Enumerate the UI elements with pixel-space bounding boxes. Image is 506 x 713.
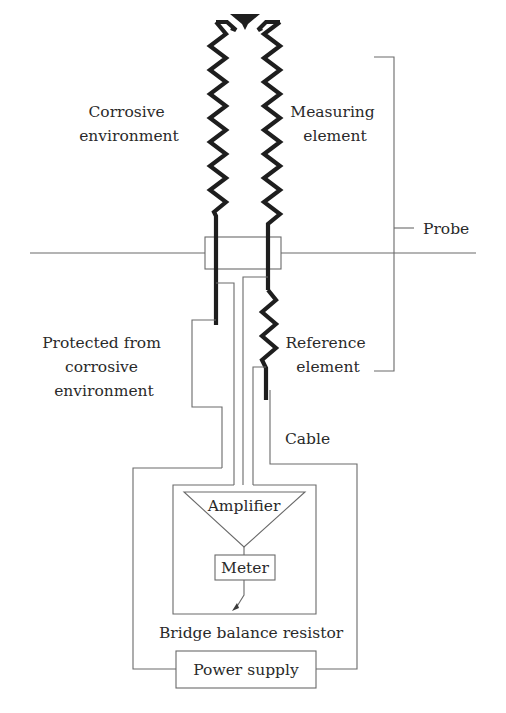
label-measuring-element: Measuring element xyxy=(290,103,379,145)
label-probe: Probe xyxy=(423,220,469,238)
label-protected: Protected from corrosive environment xyxy=(42,334,166,400)
wire-left-loop xyxy=(192,320,222,468)
label-cable: Cable xyxy=(285,430,330,448)
measuring-element xyxy=(210,22,236,325)
wire-left-outer xyxy=(216,283,234,485)
label-meter: Meter xyxy=(221,559,269,577)
reference-element xyxy=(262,290,276,400)
label-corrosive-environment: Corrosive environment xyxy=(79,103,179,145)
label-amplifier: Amplifier xyxy=(207,497,281,515)
er-probe-diagram: Corrosive environment Measuring element … xyxy=(0,0,506,713)
label-reference-element: Reference element xyxy=(285,334,370,376)
label-power-supply: Power supply xyxy=(193,661,299,679)
label-bridge-balance-resistor: Bridge balance resistor xyxy=(159,624,344,642)
